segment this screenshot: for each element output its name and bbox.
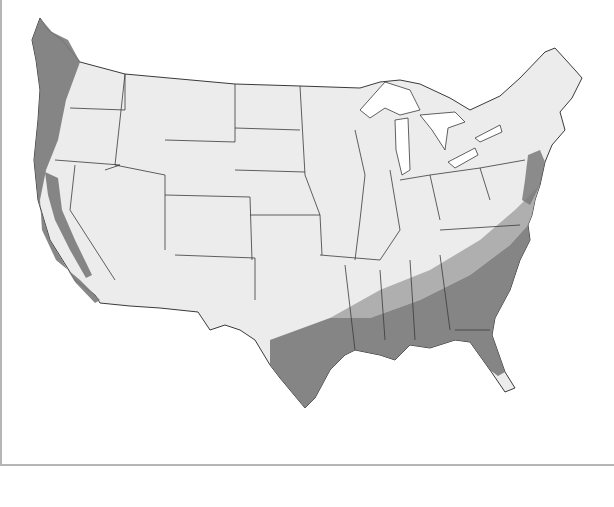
us-map xyxy=(0,0,614,466)
